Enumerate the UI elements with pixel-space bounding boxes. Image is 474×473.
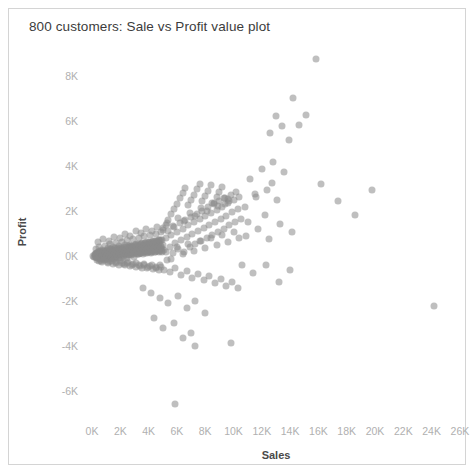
chart-title: 800 customers: Sale vs Profit value plot [29, 19, 270, 34]
chart-container: 800 customers: Sale vs Profit value plot [8, 8, 466, 465]
